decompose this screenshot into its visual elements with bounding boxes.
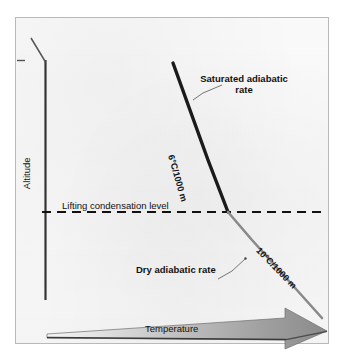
dry-adiabatic-rate-label: Dry adiabatic rate [136, 265, 216, 276]
y-axis-arrowhead [31, 38, 46, 62]
dry-label-leader-line [218, 259, 245, 279]
lifting-condensation-level-label: Lifting condensation level [62, 201, 169, 212]
saturated-adiabatic-rate-label: Saturated adiabatic rate [196, 74, 292, 95]
y-axis-label: Altitude [22, 143, 33, 203]
saturated-label-line-2: rate [235, 84, 252, 95]
x-axis-label: Temperature [145, 324, 198, 335]
saturated-label-line-1: Saturated adiabatic [200, 73, 288, 84]
diagram-canvas [0, 0, 343, 360]
dry-label-leader-dot [244, 257, 246, 259]
figure-container: Saturated adiabatic rate Dry adiabatic r… [0, 0, 343, 360]
